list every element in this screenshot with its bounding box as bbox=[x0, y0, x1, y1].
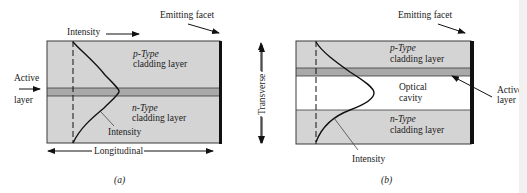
a-active-label-1: Active bbox=[14, 73, 39, 83]
b-active-layer bbox=[296, 68, 471, 76]
b-optical-cavity bbox=[296, 76, 471, 110]
b-optical-cavity-label-1: Optical bbox=[399, 82, 427, 92]
a-transverse-axis: Transverse bbox=[257, 45, 267, 143]
b-n-type-label-2: cladding layer bbox=[390, 125, 445, 135]
b-caption: (b) bbox=[381, 175, 392, 186]
panel-b: Emitting facet p-Type cladding layer Opt… bbox=[261, 10, 522, 186]
a-intensity-curve-label: Intensity bbox=[108, 127, 141, 137]
b-n-type-cladding bbox=[296, 110, 471, 144]
a-n-type-label-2: cladding layer bbox=[132, 113, 187, 123]
page-edge-shadow bbox=[519, 0, 527, 193]
b-p-type-label-2: cladding layer bbox=[390, 54, 445, 64]
a-p-type-label-2: cladding layer bbox=[133, 59, 188, 69]
b-emitting-facet-label: Emitting facet bbox=[398, 10, 452, 20]
b-active-label-1: Active bbox=[497, 85, 522, 95]
b-intensity-curve-label: Intensity bbox=[352, 154, 385, 164]
a-emitting-facet bbox=[219, 41, 222, 144]
a-active-label-2: layer bbox=[14, 95, 34, 105]
b-emitting-facet bbox=[470, 41, 474, 144]
a-transverse-label: Transverse bbox=[257, 74, 267, 115]
b-p-type-label-1: p-Type bbox=[389, 43, 416, 53]
a-intensity-top-label: Intensity bbox=[67, 27, 100, 37]
a-p-type-label-1: p-Type bbox=[132, 49, 159, 59]
b-n-type-label-1: n-Type bbox=[390, 114, 416, 124]
b-active-label-2: layer bbox=[497, 95, 517, 105]
a-longitudinal-label: Longitudinal bbox=[94, 146, 143, 156]
a-n-type-label-1: n-Type bbox=[132, 103, 158, 113]
a-emitting-facet-label: Emitting facet bbox=[160, 10, 214, 20]
a-emitting-facet-arrow bbox=[188, 24, 219, 33]
b-emitting-facet-arrow bbox=[438, 24, 465, 33]
b-optical-cavity-label-2: cavity bbox=[399, 93, 422, 103]
panel-a: Intensity Emitting facet Active layer p-… bbox=[14, 10, 222, 186]
a-caption: (a) bbox=[114, 175, 125, 186]
b-p-type-cladding bbox=[296, 41, 471, 68]
